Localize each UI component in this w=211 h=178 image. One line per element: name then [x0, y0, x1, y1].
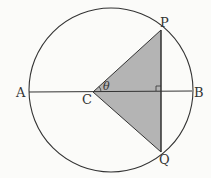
circle-diagram: A B C P Q θ: [0, 0, 211, 178]
label-a: A: [15, 85, 26, 100]
label-c: C: [82, 92, 92, 107]
label-q: Q: [159, 152, 170, 167]
label-p: P: [160, 15, 169, 30]
label-b: B: [194, 85, 204, 100]
label-theta: θ: [103, 80, 110, 93]
diameter-ab: [29, 91, 192, 92]
